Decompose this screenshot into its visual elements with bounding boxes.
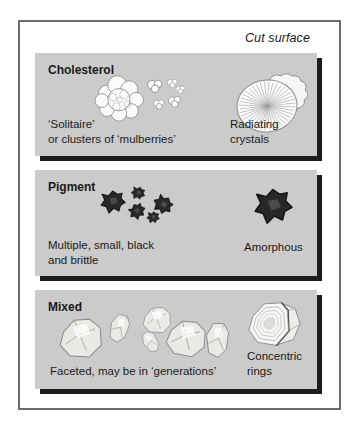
faceted-stones-illustration bbox=[55, 304, 240, 362]
mulberry-cluster-illustration bbox=[146, 79, 188, 117]
concentric-rings-stone-illustration bbox=[245, 299, 305, 353]
caption-cholesterol-left: ‘Solitaire’ or clusters of ‘mulberries’ bbox=[48, 117, 176, 146]
gallstone-types-figure: Cut surface Cholesterol bbox=[0, 0, 359, 429]
panel-mixed: Mixed Faceted, may be in ‘generations’ C… bbox=[35, 290, 317, 389]
caption-mixed-right: Concentric rings bbox=[247, 349, 302, 378]
caption-line: ‘Solitaire’ bbox=[48, 117, 176, 132]
caption-line: Concentric bbox=[247, 349, 302, 364]
caption-cholesterol-right: Radiating crystals bbox=[230, 117, 317, 146]
caption-pigment-right: Amorphous bbox=[244, 240, 303, 255]
black-pigment-stones-illustration bbox=[97, 182, 193, 234]
caption-line: or clusters of ‘mulberries’ bbox=[48, 132, 176, 147]
caption-line: Multiple, small, black bbox=[48, 238, 154, 253]
caption-line: Radiating crystals bbox=[230, 117, 317, 146]
caption-mixed-left: Faceted, may be in ‘generations’ bbox=[50, 364, 216, 379]
panel-pigment: Pigment Multiple, small, black and britt… bbox=[35, 170, 317, 276]
caption-line: and brittle bbox=[48, 253, 154, 268]
cut-surface-label: Cut surface bbox=[245, 31, 310, 45]
panel-cholesterol: Cholesterol bbox=[35, 53, 317, 156]
panel-title-pigment: Pigment bbox=[48, 180, 95, 194]
solitaire-mulberry-stone-illustration bbox=[92, 74, 146, 122]
amorphous-stone-illustration bbox=[250, 186, 294, 228]
caption-line: rings bbox=[247, 364, 302, 379]
caption-line: Amorphous bbox=[244, 240, 303, 255]
caption-line: Faceted, may be in ‘generations’ bbox=[50, 364, 216, 379]
caption-pigment-left: Multiple, small, black and brittle bbox=[48, 238, 154, 267]
